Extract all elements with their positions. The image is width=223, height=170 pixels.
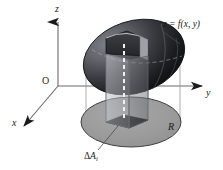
origin-label: O	[42, 76, 49, 86]
surface-equation-label: z = f(x, y)	[163, 20, 200, 30]
region-label-r: R	[168, 122, 174, 132]
axis-label-x: x	[12, 118, 16, 128]
axis-label-y: y	[206, 88, 210, 98]
area-subscript: i	[96, 155, 98, 162]
prism-face-right	[129, 56, 148, 128]
math-figure: z y x O R z = f(x, y) ΔAi	[0, 0, 223, 170]
axis-label-z: z	[55, 4, 59, 14]
area-element-label: ΔAi	[84, 152, 98, 162]
prism-face-left	[106, 54, 129, 128]
x-axis-line	[24, 86, 58, 126]
